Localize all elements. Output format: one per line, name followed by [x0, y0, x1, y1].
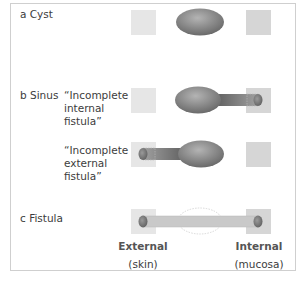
internal-title: Internal [228, 240, 290, 253]
sinus-external-shape [139, 141, 225, 168]
external-sub-wrap: (skin) [113, 258, 173, 271]
internal-sub-wrap: (mucosa) [228, 258, 290, 271]
internal-sub: (mucosa) [234, 258, 283, 270]
external-label: External (skin) [113, 240, 173, 271]
fistula-shape [139, 208, 263, 234]
cyst-cavity [176, 9, 224, 36]
sinus-internal-shape [175, 87, 263, 114]
external-sub: (skin) [128, 258, 157, 270]
external-title: External [113, 240, 173, 253]
internal-label: Internal (mucosa) [228, 240, 290, 271]
